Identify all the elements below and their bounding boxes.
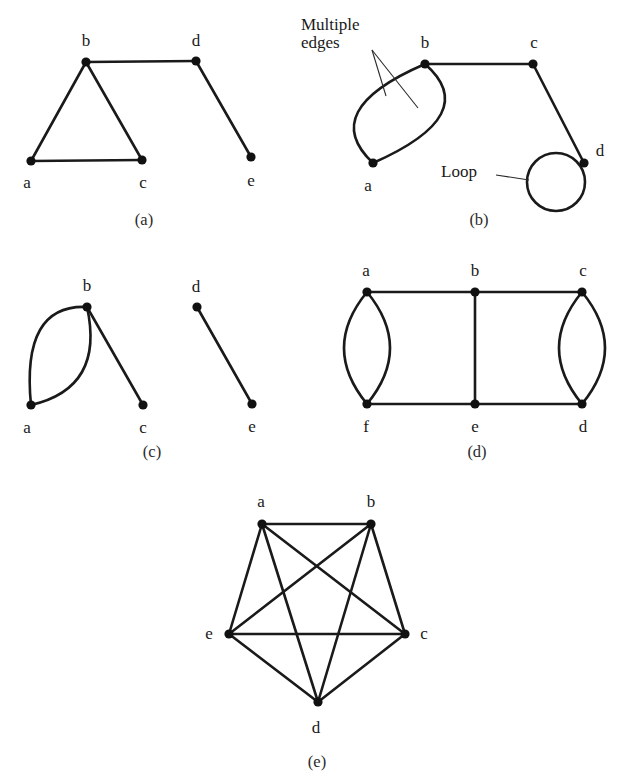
vertex-label-c-d: d bbox=[192, 278, 201, 295]
edges-layer bbox=[30, 61, 605, 702]
vertex-label-e-d: d bbox=[312, 719, 321, 736]
vertex-c-a bbox=[26, 400, 35, 409]
vertex-label-c-b: b bbox=[83, 277, 92, 294]
vertex-label-d-e: e bbox=[471, 418, 479, 435]
vertex-label-e-a: a bbox=[257, 493, 265, 510]
vertex-c-d bbox=[192, 302, 201, 311]
vertex-c-b bbox=[82, 302, 91, 311]
edge-c-de bbox=[197, 307, 252, 404]
vertex-a-b bbox=[81, 57, 90, 66]
vertex-label-d-f: f bbox=[363, 418, 369, 435]
annotation-leader-b-1-0 bbox=[496, 175, 529, 180]
edge-a-de bbox=[196, 61, 251, 157]
vertex-d-f bbox=[362, 399, 371, 408]
edge-e-bd bbox=[318, 524, 371, 702]
vertex-b-d bbox=[579, 158, 588, 167]
vertex-b-a bbox=[368, 158, 377, 167]
vertex-d-a bbox=[362, 287, 371, 296]
edge-e-be bbox=[229, 524, 371, 634]
panel-caption-a: (a) bbox=[135, 212, 153, 229]
vertex-a-a bbox=[26, 156, 35, 165]
vertex-b-b bbox=[420, 59, 429, 68]
vertex-label-d-d: d bbox=[579, 418, 588, 435]
edge-c-bc bbox=[87, 307, 143, 405]
graph-figure: abcde(a)abcd(b)Multiple edgesLoopabcde(c… bbox=[0, 0, 617, 782]
vertex-label-b-b: b bbox=[421, 34, 430, 51]
edge-d-cd-8 bbox=[582, 292, 605, 404]
vertex-label-b-a: a bbox=[364, 177, 372, 194]
vertex-e-d bbox=[313, 697, 322, 706]
edge-d-af-5 bbox=[344, 292, 367, 404]
vertex-label-b-c: c bbox=[530, 34, 538, 51]
vertex-label-b-d: d bbox=[596, 142, 605, 159]
vertex-a-e bbox=[246, 152, 255, 161]
vertex-b-c bbox=[528, 59, 537, 68]
edge-a-ac bbox=[31, 160, 142, 161]
annotation-b-1: Loop bbox=[441, 163, 477, 181]
vertex-e-e bbox=[224, 629, 233, 638]
edge-d-af-6 bbox=[367, 292, 390, 404]
vertex-e-b bbox=[366, 519, 375, 528]
edge-b-ab-0 bbox=[354, 64, 425, 163]
vertex-label-e-b: b bbox=[367, 493, 376, 510]
vertex-label-c-a: a bbox=[23, 419, 31, 436]
edge-a-bd bbox=[86, 61, 196, 62]
vertex-d-e bbox=[470, 399, 479, 408]
vertex-label-a-e: e bbox=[247, 172, 255, 189]
annotation-b-0: Multiple edges bbox=[301, 16, 360, 53]
vertex-e-c bbox=[400, 629, 409, 638]
panel-caption-c: (c) bbox=[143, 444, 161, 461]
vertex-label-a-b: b bbox=[82, 32, 91, 49]
edge-d-cd-7 bbox=[559, 292, 582, 404]
vertex-label-a-c: c bbox=[139, 174, 147, 191]
vertex-label-c-c: c bbox=[139, 419, 147, 436]
vertex-c-c bbox=[138, 400, 147, 409]
edge-e-ac bbox=[262, 524, 405, 634]
vertex-d-b bbox=[470, 287, 479, 296]
annotation-leader-b-0-1 bbox=[372, 50, 418, 108]
vertex-label-a-d: d bbox=[192, 32, 201, 49]
edge-e-cd bbox=[318, 634, 405, 702]
panel-caption-e: (e) bbox=[308, 754, 326, 771]
edge-b-ab-1 bbox=[373, 64, 445, 163]
edge-a-bc bbox=[86, 62, 142, 160]
edge-e-ae bbox=[229, 524, 262, 634]
vertex-e-a bbox=[257, 519, 266, 528]
vertex-c-e bbox=[247, 399, 256, 408]
vertex-label-c-e: e bbox=[248, 418, 256, 435]
vertex-label-d-b: b bbox=[471, 262, 480, 279]
panel-caption-b: (b) bbox=[469, 212, 488, 229]
vertex-d-d bbox=[577, 399, 586, 408]
panel-caption-d: (d) bbox=[467, 444, 486, 461]
vertex-label-e-e: e bbox=[205, 625, 213, 642]
vertex-a-d bbox=[191, 56, 200, 65]
edge-c-ab-1 bbox=[31, 307, 91, 405]
edge-a-ab bbox=[31, 62, 86, 161]
annotation-leaders-layer bbox=[372, 50, 529, 180]
vertices-layer bbox=[26, 56, 588, 706]
vertex-a-c bbox=[137, 155, 146, 164]
graph-canvas bbox=[0, 0, 617, 782]
vertex-label-d-c: c bbox=[579, 262, 587, 279]
vertex-label-e-c: c bbox=[420, 625, 428, 642]
edge-e-ad bbox=[262, 524, 318, 702]
edge-c-ab-0 bbox=[30, 307, 87, 405]
edge-b-cd bbox=[533, 64, 584, 163]
vertex-label-a-a: a bbox=[23, 174, 31, 191]
edge-loop-b-d bbox=[527, 153, 585, 211]
edge-e-bc bbox=[371, 524, 405, 634]
vertex-label-d-a: a bbox=[362, 262, 370, 279]
edge-e-de bbox=[229, 634, 318, 702]
vertex-d-c bbox=[577, 287, 586, 296]
